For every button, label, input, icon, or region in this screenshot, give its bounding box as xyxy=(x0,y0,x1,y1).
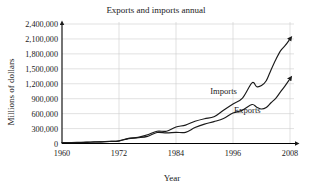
gridlines xyxy=(62,22,294,144)
y-tick-label: 1,500,000 xyxy=(25,65,58,74)
y-tick-label: 2,400,000 xyxy=(25,20,58,29)
y-tick-label: 600,000 xyxy=(31,110,58,119)
series-annotation-exports: Exports xyxy=(234,105,261,115)
chart-title: Exports and imports annual xyxy=(106,5,206,15)
series-annotations: ImportsExports xyxy=(210,86,261,115)
x-axis-title: Year xyxy=(164,173,181,183)
y-tick-label: 2,100,000 xyxy=(25,35,58,44)
x-tick-label: 1960 xyxy=(54,149,70,158)
exports-imports-line-chart: Exports and imports annual Millions of d… xyxy=(0,0,312,186)
y-tick-label: 900,000 xyxy=(31,95,58,104)
y-tick-label: 300,000 xyxy=(31,125,58,134)
y-tick-label: 1,800,000 xyxy=(25,50,58,59)
y-tick-label: 1,200,000 xyxy=(25,80,58,89)
x-tick-label: 1996 xyxy=(225,149,241,158)
x-tick-label: 2008 xyxy=(282,149,298,158)
chart-container: Exports and imports annual Millions of d… xyxy=(0,0,312,186)
y-axis-tick-labels: 0300,000600,000900,0001,200,0001,500,000… xyxy=(25,20,58,149)
x-tick-label: 1972 xyxy=(111,149,127,158)
x-axis-tick-labels: 19601972198419962008 xyxy=(54,149,298,158)
series-annotation-imports: Imports xyxy=(210,86,237,96)
y-axis-title: Millions of dollars xyxy=(6,58,16,125)
y-tick-label: 0 xyxy=(54,140,58,149)
x-tick-label: 1984 xyxy=(168,149,184,158)
